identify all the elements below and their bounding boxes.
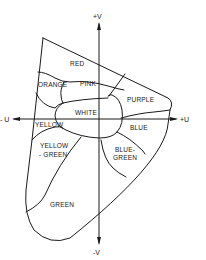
purple-blue-boundary	[121, 110, 170, 118]
red-purple-boundary	[109, 74, 125, 96]
label-blue-green-line2: GREEN	[113, 154, 137, 161]
label-yellow-green-line2: - GREEN	[39, 151, 68, 158]
axes	[12, 22, 178, 245]
label-purple: PURPLE	[127, 96, 155, 103]
axis-label-pos-v: +V	[93, 13, 102, 20]
pink-white-boundary	[63, 98, 108, 103]
label-blue-green-line1: BLUE-	[115, 146, 135, 153]
label-white: WHITE	[75, 109, 97, 116]
label-green: GREEN	[50, 201, 74, 208]
white-boundary	[55, 95, 122, 138]
v-axis-down-arrow-icon	[97, 237, 101, 245]
v-axis-up-arrow-icon	[97, 22, 101, 30]
label-blue: BLUE	[130, 124, 148, 131]
label-red: RED	[70, 60, 84, 67]
axis-label-pos-u: +U	[180, 116, 189, 123]
color-space-diagram: RED ORANGE PINK WHITE PURPLE YELLOW BLUE…	[0, 0, 206, 260]
u-axis-right-arrow-icon	[170, 117, 178, 121]
label-yellow: YELLOW	[35, 121, 64, 128]
u-axis-left-arrow-icon	[12, 117, 20, 121]
label-pink: PINK	[80, 80, 96, 87]
yellow-yellowgreen-boundary	[32, 127, 63, 140]
axis-label-neg-u: - U	[0, 116, 9, 123]
label-yellow-green-line1: YELLOW	[40, 142, 69, 149]
axis-label-neg-v: -V	[93, 249, 100, 256]
label-orange: ORANGE	[38, 81, 68, 88]
